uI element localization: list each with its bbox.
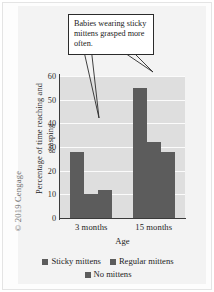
legend-row-primary: Sticky mittensRegular mittens [20, 255, 196, 268]
bar-no-mittens-3-months [98, 190, 112, 218]
plot-area [60, 76, 185, 218]
x-axis-category-label: 15 months [123, 222, 186, 232]
x-axis-title: Age [60, 236, 185, 246]
legend-row-secondary: No mittens [20, 268, 196, 281]
y-axis-tick-labels: 0102030405060 [30, 76, 56, 218]
y-axis-line [59, 74, 60, 220]
figure-container: © 2019 Cengage Percentage of time reachi… [0, 0, 214, 292]
legend-item[interactable]: Regular mittens [110, 255, 174, 268]
gridline [60, 76, 185, 77]
y-axis-tick-label: 50 [32, 95, 56, 104]
chart-legend: Sticky mittensRegular mittens No mittens [20, 255, 196, 281]
legend-item-label: No mittens [94, 268, 132, 281]
legend-item-label: Regular mittens [119, 255, 174, 268]
legend-item[interactable]: No mittens [85, 268, 132, 281]
y-axis-tick-label: 60 [32, 72, 56, 81]
y-axis-tick-label: 0 [32, 214, 56, 223]
legend-swatch-icon [42, 259, 48, 265]
y-axis-tick-label: 20 [32, 166, 56, 175]
y-axis-tick-label: 10 [32, 190, 56, 199]
gridline [60, 100, 185, 101]
x-axis-line [59, 218, 186, 219]
copyright-notice: © 2019 Cengage [13, 161, 23, 241]
gridline [60, 147, 185, 148]
y-axis-tick-label: 30 [32, 143, 56, 152]
bar-sticky-mittens-3-months [70, 152, 84, 218]
bar-no-mittens-15-months [161, 152, 175, 218]
legend-swatch-icon [110, 259, 116, 265]
annotation-callout: Babies wearing sticky mittens grasped mo… [68, 14, 154, 55]
legend-item-label: Sticky mittens [51, 255, 100, 268]
bar-sticky-mittens-15-months [133, 88, 147, 218]
bar-regular-mittens-3-months [84, 194, 98, 218]
bar-regular-mittens-15-months [147, 142, 161, 218]
gridline [60, 123, 185, 124]
x-axis-category-label: 3 months [60, 222, 123, 232]
legend-swatch-icon [85, 272, 91, 278]
legend-item[interactable]: Sticky mittens [42, 255, 100, 268]
y-axis-tick-label: 40 [32, 119, 56, 128]
